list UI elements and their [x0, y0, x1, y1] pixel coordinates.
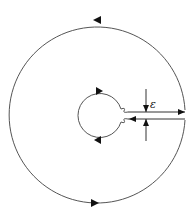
outer-top-arrow-icon [93, 16, 101, 24]
epsilon-label: ε [150, 98, 156, 111]
keyhole-contour-diagram: ε [0, 0, 196, 216]
outer-bottom-arrow-icon [91, 199, 99, 207]
arrow-right-icon [178, 109, 185, 115]
inner-notch-top [121, 108, 128, 112]
arrow-left-icon [129, 116, 136, 122]
outer-contour-arc [9, 27, 185, 203]
epsilon-down-arrow-icon [143, 105, 149, 112]
inner-contour-arc [78, 93, 121, 137]
inner-notch-bottom [121, 119, 128, 123]
epsilon-up-arrow-icon [143, 119, 149, 126]
